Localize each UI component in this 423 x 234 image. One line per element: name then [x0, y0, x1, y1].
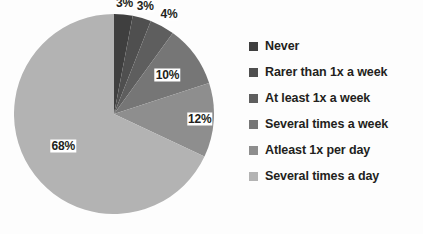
legend-item-label: Several times a day: [265, 169, 379, 183]
legend-swatch-icon: [249, 146, 258, 155]
legend-swatch-icon: [249, 120, 258, 129]
legend-swatch-icon: [249, 42, 258, 51]
pie-data-label: 68%: [51, 140, 76, 153]
pie-data-label: 12%: [187, 113, 212, 126]
legend-item-label: Rarer than 1x a week: [265, 65, 387, 79]
pie-data-label: 3%: [115, 0, 134, 9]
legend-swatch-icon: [249, 68, 258, 77]
legend-item[interactable]: Never: [249, 33, 421, 59]
legend-item-label: At least 1x a week: [265, 91, 370, 105]
legend-item[interactable]: Several times a week: [249, 111, 421, 137]
legend-item[interactable]: Atleast 1x per day: [249, 137, 421, 163]
pie-slice-group: [14, 14, 214, 214]
pie-plot-area: 3%3%4%10%12%68%: [14, 14, 214, 214]
legend-item-label: Several times a week: [265, 117, 388, 131]
legend-swatch-icon: [249, 172, 258, 181]
legend-item[interactable]: Several times a day: [249, 163, 421, 189]
legend-item-label: Never: [265, 39, 299, 53]
pie-data-label: 10%: [155, 69, 180, 82]
pie-svg: [14, 14, 214, 214]
legend: NeverRarer than 1x a weekAt least 1x a w…: [249, 33, 421, 189]
pie-chart: 3%3%4%10%12%68% NeverRarer than 1x a wee…: [0, 0, 423, 234]
pie-data-label: 3%: [136, 0, 155, 13]
legend-item-label: Atleast 1x per day: [265, 143, 370, 157]
pie-data-label: 4%: [159, 8, 178, 21]
legend-item[interactable]: At least 1x a week: [249, 85, 421, 111]
legend-item[interactable]: Rarer than 1x a week: [249, 59, 421, 85]
legend-swatch-icon: [249, 94, 258, 103]
